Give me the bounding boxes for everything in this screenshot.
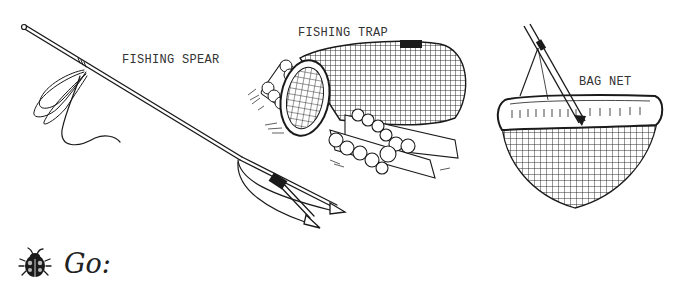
go-prompt: Go: [18, 246, 111, 280]
label-fishing-spear: FISHING SPEAR [122, 53, 220, 67]
fishing-trap-drawing [248, 40, 466, 178]
bag-net-drawing [498, 24, 662, 208]
label-fishing-trap: FISHING TRAP [298, 26, 388, 40]
go-label: Go: [64, 248, 111, 279]
label-bag-net: BAG NET [579, 75, 632, 89]
illustration-canvas [0, 0, 682, 286]
ladybug-icon [18, 246, 52, 280]
